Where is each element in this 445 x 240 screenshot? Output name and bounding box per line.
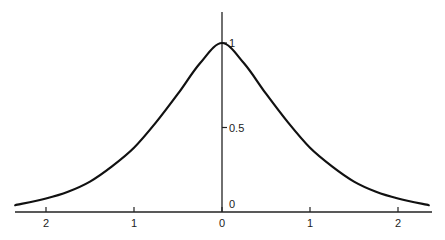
y-tick-label: 0.5 [229, 122, 244, 134]
x-tick-label: 2 [43, 217, 49, 229]
x-tick-label: 1 [307, 217, 313, 229]
x-tick-label: 2 [395, 217, 401, 229]
bell-curve-chart: 21012 00.51 [0, 0, 445, 240]
x-ticks: 21012 [43, 207, 401, 229]
y-tick-label: 0 [229, 198, 235, 210]
axes [15, 12, 432, 212]
x-tick-label: 1 [131, 217, 137, 229]
x-tick-label: 0 [219, 217, 225, 229]
y-ticks: 00.51 [222, 37, 244, 210]
